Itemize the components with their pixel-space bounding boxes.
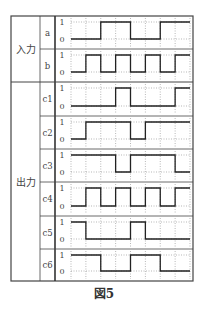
signal-row-c1: c110 [42, 84, 190, 114]
signal-row-c6: c610 [42, 251, 190, 279]
level-label-low: 0 [59, 102, 64, 111]
level-label-low: 0 [59, 267, 64, 276]
signal-name: a [45, 28, 50, 38]
group-label-1: 出力 [16, 176, 36, 188]
waveform-c3 [71, 155, 190, 172]
signal-name: c1 [42, 94, 52, 104]
signal-row-c3: c310 [42, 151, 190, 180]
signal-name: b [45, 61, 51, 71]
signal-name: c4 [42, 194, 52, 204]
waveform-c4 [71, 188, 190, 206]
group-label-0: 入力 [16, 43, 36, 55]
level-label-low: 0 [59, 202, 64, 211]
waveform-b [71, 55, 190, 72]
signal-name: c6 [42, 260, 52, 270]
level-label-high: 1 [59, 18, 64, 27]
waveform-c5 [71, 222, 190, 239]
signal-row-c5: c510 [42, 218, 190, 247]
level-label-high: 1 [59, 84, 64, 93]
signal-row-a: a10 [45, 18, 190, 47]
signal-row-c4: c410 [42, 184, 190, 214]
level-label-high: 1 [59, 184, 64, 193]
waveform-c1 [71, 88, 190, 106]
table-frame [11, 16, 193, 281]
waveform-c6 [71, 255, 190, 271]
level-label-high: 1 [59, 151, 64, 160]
level-label-low: 0 [59, 35, 64, 44]
level-label-low: 0 [59, 168, 64, 177]
waveform-c2 [71, 122, 190, 139]
level-label-high: 1 [59, 118, 64, 127]
signal-name: c3 [42, 161, 52, 171]
signal-name: c2 [42, 128, 52, 138]
level-label-high: 1 [59, 51, 64, 60]
figure-caption: 図5 [0, 284, 208, 301]
level-label-low: 0 [59, 235, 64, 244]
level-label-high: 1 [59, 218, 64, 227]
level-label-low: 0 [59, 68, 64, 77]
waveform-a [71, 22, 190, 39]
signal-row-b: b10 [45, 51, 190, 80]
level-label-high: 1 [59, 251, 64, 260]
level-label-low: 0 [59, 135, 64, 144]
timing-diagram: 入力出力a10b10c110c210c310c410c510c610 [0, 0, 208, 315]
signal-name: c5 [42, 228, 52, 238]
signal-row-c2: c210 [42, 118, 190, 147]
